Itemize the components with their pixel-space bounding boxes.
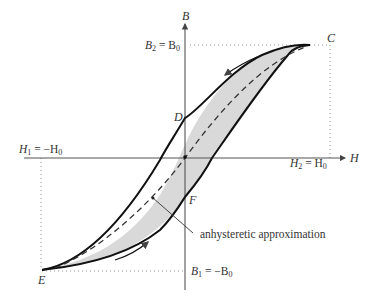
point-d-label: D [173,110,183,124]
b-axis-label: B [182,9,190,23]
point-f-label: F [188,193,197,207]
hysteresis-diagram: B H B2 = B0 B1 = −B0 H1 = −H0 H2 = H0 C … [0,0,377,304]
h-axis-label: H [349,151,360,165]
h2-label: H2 = H0 [289,157,327,171]
point-e-label: E [37,273,46,287]
b1-label: B1 = −B0 [191,265,232,279]
b2-label: B2 = B0 [145,39,180,53]
anhysteretic-annotation: anhysteretic approximation [200,228,326,241]
h1-label: H1 = −H0 [18,143,62,157]
origin-dot [183,155,187,159]
point-c-label: C [327,31,336,45]
annotation-leader-dot [152,197,155,200]
